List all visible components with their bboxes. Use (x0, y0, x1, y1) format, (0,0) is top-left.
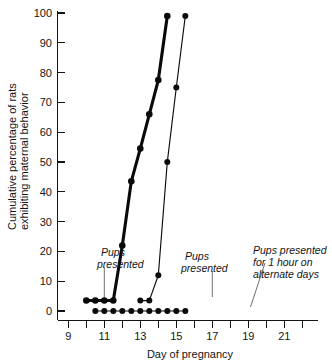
data-point (137, 145, 144, 152)
data-point (101, 297, 108, 304)
data-point (128, 178, 135, 185)
series-2 (92, 308, 188, 314)
x-axis-title: Day of pregnancy (147, 348, 234, 360)
data-point (155, 77, 162, 84)
annotation-pups-presented-day11: Pups presented (96, 246, 145, 297)
annotation-line-3: alternate days (253, 268, 320, 280)
y-tick-label-90: 90 (40, 37, 52, 49)
data-point (182, 13, 188, 19)
annotation-alternate-days: Pups presented for 1 hour on alternate d… (251, 244, 328, 307)
data-point (101, 308, 107, 314)
data-point (173, 85, 179, 91)
x-tick-label-19: 19 (242, 330, 254, 342)
data-point (146, 298, 152, 304)
data-point (146, 111, 153, 118)
data-point (92, 308, 98, 314)
annotation-pups-presented-day17: Pups presented (180, 250, 229, 297)
y-axis-title-line1: Cumulative percentage of rats (6, 83, 18, 230)
data-point (92, 297, 99, 304)
x-tick-label-17: 17 (206, 330, 218, 342)
data-point (164, 308, 170, 314)
data-point (155, 272, 161, 278)
data-point (83, 297, 90, 304)
y-axis-title-line2: exhibiting maternal behavior (18, 92, 30, 230)
line-chart: 100 90 80 70 60 50 40 30 20 10 0 Cumulat… (0, 0, 332, 363)
data-point (137, 308, 143, 314)
data-point (137, 298, 143, 304)
y-tick-label-100: 100 (34, 7, 52, 19)
y-tick-label-60: 60 (40, 126, 52, 138)
y-axis: 100 90 80 70 60 50 40 30 20 10 0 Cumulat… (6, 7, 65, 320)
annotation-line-2: presented (180, 262, 229, 274)
annotation-line-2: presented (96, 258, 145, 270)
y-tick-label-0: 0 (46, 305, 52, 317)
x-tick-label-9: 9 (65, 330, 71, 342)
chart-figure: 100 90 80 70 60 50 40 30 20 10 0 Cumulat… (0, 0, 332, 363)
x-tick-label-13: 13 (134, 330, 146, 342)
annotation-line-1: Pups (101, 246, 126, 258)
data-point (182, 308, 188, 314)
y-tick-label-70: 70 (40, 96, 52, 108)
annotation-line-1: Pups presented (253, 244, 328, 256)
y-tick-label-50: 50 (40, 156, 52, 168)
y-tick-label-80: 80 (40, 67, 52, 79)
data-point (110, 297, 117, 304)
y-tick-label-40: 40 (40, 186, 52, 198)
data-point (146, 308, 152, 314)
data-point (128, 308, 134, 314)
data-point (110, 308, 116, 314)
x-tick-label-21: 21 (278, 330, 290, 342)
x-tick-label-15: 15 (170, 330, 182, 342)
data-point (173, 308, 179, 314)
data-point (164, 159, 170, 165)
y-tick-label-10: 10 (40, 275, 52, 287)
data-point (155, 308, 161, 314)
x-tick-label-11: 11 (99, 330, 110, 342)
annotation-line-2: for 1 hour on (253, 256, 313, 268)
x-axis: 9 11 13 15 17 19 21 Day of pregnancy (58, 321, 319, 361)
y-tick-label-20: 20 (40, 245, 52, 257)
y-tick-label-30: 30 (40, 216, 52, 228)
data-point (164, 13, 171, 20)
data-point (119, 308, 125, 314)
annotation-line-1: Pups (185, 250, 210, 262)
